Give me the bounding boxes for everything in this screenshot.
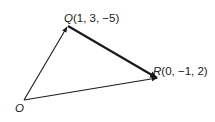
point-o-label: O [15,103,24,115]
vector-oq [24,27,67,100]
point-r-label: R(0, −1, 2) [153,66,208,78]
vector-qr [68,26,157,78]
point-q-label: Q(1, 3, −5) [64,13,119,25]
vector-or [24,78,157,100]
point-q-coords: (1, 3, −5) [73,12,119,24]
point-q-name: Q [64,12,73,24]
point-r-coords: (0, −1, 2) [161,65,207,77]
